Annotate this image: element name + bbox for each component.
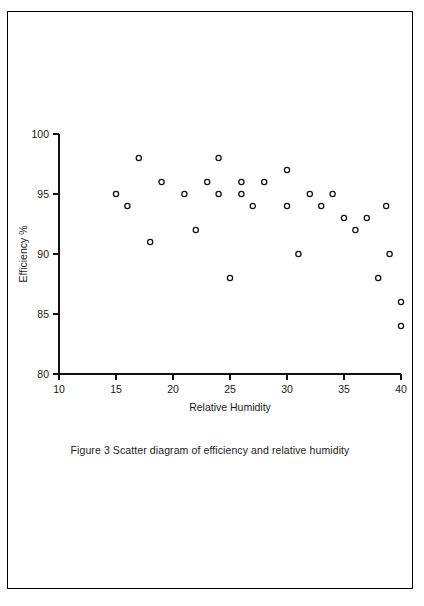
- data-point: [193, 227, 198, 232]
- data-point: [239, 191, 244, 196]
- data-point: [341, 215, 346, 220]
- y-axis-title: Efficiency %: [17, 226, 29, 283]
- data-point: [216, 155, 221, 160]
- data-point: [262, 179, 267, 184]
- scatter-plot: 8085909510010152025303540Relative Humidi…: [8, 12, 412, 472]
- y-tick-label: 80: [37, 368, 49, 380]
- data-point: [125, 203, 130, 208]
- figure-caption: Figure 3 Scatter diagram of efficiency a…: [8, 444, 412, 456]
- data-point: [136, 155, 141, 160]
- data-point: [284, 203, 289, 208]
- data-point: [159, 179, 164, 184]
- x-tick-label: 30: [281, 383, 293, 395]
- data-point: [376, 275, 381, 280]
- data-point: [113, 191, 118, 196]
- data-point: [398, 299, 403, 304]
- data-point: [353, 227, 358, 232]
- data-point: [227, 275, 232, 280]
- y-tick-label: 95: [37, 188, 49, 200]
- x-tick-label: 10: [53, 383, 65, 395]
- data-point: [384, 203, 389, 208]
- data-point: [319, 203, 324, 208]
- data-point: [239, 179, 244, 184]
- y-tick-label: 90: [37, 248, 49, 260]
- x-tick-label: 15: [110, 383, 122, 395]
- x-tick-label: 40: [395, 383, 407, 395]
- page-frame: 8085909510010152025303540Relative Humidi…: [7, 11, 413, 589]
- data-point: [364, 215, 369, 220]
- x-tick-label: 35: [338, 383, 350, 395]
- data-point: [387, 251, 392, 256]
- data-point: [398, 323, 403, 328]
- data-point: [205, 179, 210, 184]
- x-tick-label: 25: [224, 383, 236, 395]
- data-point: [182, 191, 187, 196]
- scatter-figure: 8085909510010152025303540Relative Humidi…: [8, 12, 412, 472]
- x-tick-label: 20: [167, 383, 179, 395]
- data-point: [284, 167, 289, 172]
- data-point: [307, 191, 312, 196]
- data-point: [250, 203, 255, 208]
- y-tick-label: 85: [37, 308, 49, 320]
- y-tick-label: 100: [31, 128, 49, 140]
- x-axis-title: Relative Humidity: [189, 401, 271, 413]
- data-point: [330, 191, 335, 196]
- data-point: [216, 191, 221, 196]
- data-point: [296, 251, 301, 256]
- data-point: [148, 239, 153, 244]
